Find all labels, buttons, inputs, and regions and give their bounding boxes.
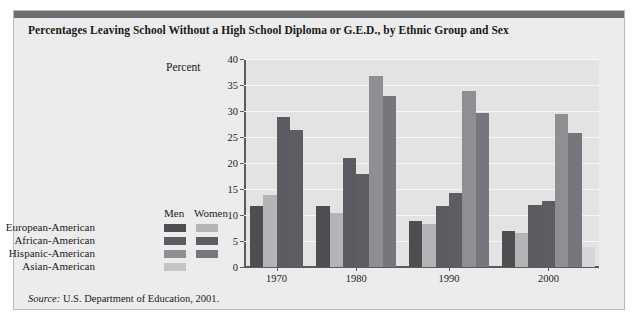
y-tick-mark [240, 215, 244, 216]
bar [555, 114, 568, 267]
x-tick-mark [277, 267, 278, 271]
source-note: Source: U.S. Department of Education, 20… [28, 293, 219, 304]
legend-label: African-American [14, 234, 95, 246]
y-tick-label: 35 [228, 80, 239, 91]
y-tick-label: 0 [233, 262, 238, 273]
legend-row: European-American [28, 221, 228, 234]
figure-panel: Percentages Leaving School Without a Hig… [13, 10, 625, 310]
legend-row: Hispanic-American [28, 247, 228, 260]
bar [263, 195, 276, 267]
bar [409, 221, 422, 267]
legend-swatch-women [196, 237, 218, 245]
y-tick-mark [240, 85, 244, 86]
y-tick-mark [240, 111, 244, 112]
bar [422, 224, 435, 267]
bar [462, 91, 475, 267]
y-tick-mark [240, 137, 244, 138]
y-tick-mark [240, 189, 244, 190]
bar [356, 174, 369, 267]
bar [316, 206, 329, 267]
x-tick-label: 1970 [266, 273, 287, 284]
legend-swatch-women [196, 250, 218, 258]
source-prefix: Source: [28, 293, 60, 304]
y-tick-mark [240, 59, 244, 60]
x-tick-label: 1980 [346, 273, 367, 284]
legend-rows: European-AmericanAfrican-AmericanHispani… [28, 221, 228, 273]
legend-column-men: Men [164, 207, 184, 219]
bar [383, 96, 396, 267]
legend-row: Asian-American [28, 260, 228, 273]
bar [330, 213, 343, 267]
y-tick-mark [240, 163, 244, 164]
legend-swatch-men [164, 263, 186, 271]
y-tick-label: 15 [228, 184, 239, 195]
y-tick-label: 10 [228, 210, 239, 221]
x-tick-mark [548, 267, 549, 271]
legend-column-women: Women [194, 207, 228, 219]
y-tick-label: 30 [228, 106, 239, 117]
legend-swatch-men [164, 237, 186, 245]
y-tick-mark [240, 241, 244, 242]
bar [250, 206, 263, 267]
x-tick-mark [449, 267, 450, 271]
y-tick-label: 20 [228, 158, 239, 169]
bar [290, 130, 303, 267]
legend-swatch-women [196, 224, 218, 232]
legend-label: European-American [6, 221, 95, 233]
bar [343, 158, 356, 267]
legend-header: Men Women [28, 207, 228, 221]
bar [277, 117, 290, 267]
bar [449, 193, 462, 267]
bar [568, 133, 581, 267]
legend-label: Asian-American [22, 260, 95, 272]
legend-row: African-American [28, 234, 228, 247]
legend-label: Hispanic-American [9, 247, 95, 259]
legend-swatch-men [164, 250, 186, 258]
bar [582, 247, 595, 267]
legend-swatch-men [164, 224, 186, 232]
bar [528, 205, 541, 267]
bar [476, 113, 489, 267]
y-axis-title: Percent [166, 61, 200, 73]
gridline [244, 59, 599, 60]
bar [542, 201, 555, 267]
gridline [244, 111, 599, 112]
y-tick-mark [240, 267, 244, 268]
plot-region: 0510152025303540 1970198019902000 [244, 59, 599, 267]
bar [436, 206, 449, 267]
chart-legend: Men Women European-AmericanAfrican-Ameri… [28, 207, 228, 273]
y-tick-label: 40 [228, 54, 239, 65]
y-tick-label: 25 [228, 132, 239, 143]
bar [502, 231, 515, 267]
x-tick-mark [356, 267, 357, 271]
source-text: U.S. Department of Education, 2001. [60, 293, 219, 304]
y-tick-label: 5 [233, 236, 238, 247]
bar [369, 76, 382, 267]
gridline [244, 85, 599, 86]
x-tick-label: 2000 [538, 273, 559, 284]
bar [515, 233, 528, 267]
x-tick-label: 1990 [438, 273, 459, 284]
